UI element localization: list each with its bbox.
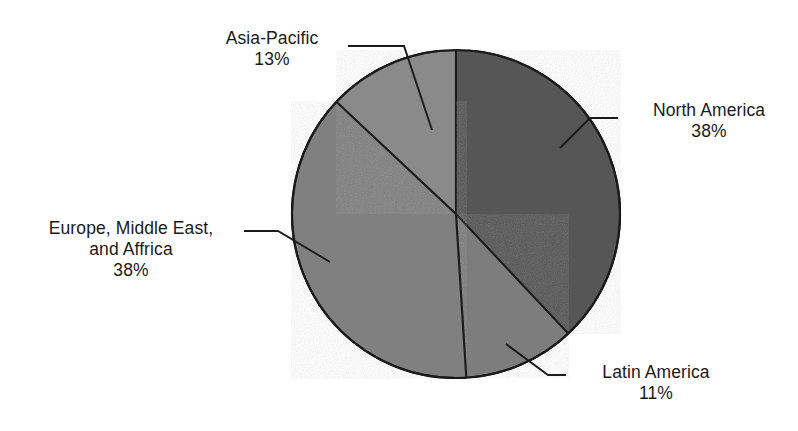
- pie-label-latin-america-name: Latin America: [556, 362, 756, 383]
- pie-chart-figure: Asia-Pacific 13% North America 38% Europ…: [0, 0, 798, 431]
- pie-label-latin-america-value: 11%: [556, 383, 756, 404]
- pie-label-north-america-name: North America: [620, 100, 798, 121]
- pie-label-latin-america: Latin America 11%: [556, 362, 756, 404]
- pie-label-asia-pacific: Asia-Pacific 13%: [162, 28, 382, 70]
- pie-label-asia-pacific-value: 13%: [162, 49, 382, 70]
- pie-label-north-america: North America 38%: [620, 100, 798, 142]
- pie-label-emea: Europe, Middle East, and Affrica 38%: [6, 218, 256, 281]
- pie-slices: [292, 50, 620, 378]
- pie-label-emea-name-line2: and Affrica: [6, 239, 256, 260]
- pie-label-emea-name-line1: Europe, Middle East,: [6, 218, 256, 239]
- pie-label-asia-pacific-name: Asia-Pacific: [162, 28, 382, 49]
- pie-label-emea-value: 38%: [6, 260, 256, 281]
- pie-label-north-america-value: 38%: [620, 121, 798, 142]
